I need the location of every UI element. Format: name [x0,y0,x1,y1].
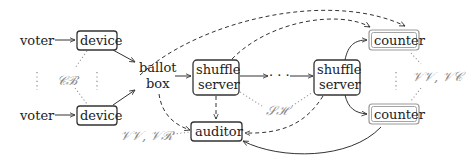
vv-vc-label: 𝒱𝒱, 𝒱𝒞 [412,69,466,84]
edge-shuffle2-to-counter-top [345,40,367,60]
cb-label: 𝒞ℬ [57,73,80,88]
edge-device-bottom-to-ballotbox [113,90,135,105]
vv-vr-label: 𝒱𝒱, 𝒱ℛ [120,128,175,143]
svg-text:server: server [319,77,362,92]
voter-bottom: voter [19,108,55,123]
voter-top: voter [19,33,55,48]
ballot-box-node: ballot box [139,60,177,91]
device-top-node: device [77,31,123,50]
svg-text:auditor: auditor [195,124,244,139]
svg-text:device: device [80,108,123,123]
edge-shuffle2-to-counter-bottom [345,95,367,114]
counter-bottom-node: counter [369,104,426,124]
svg-text:ballot: ballot [139,60,177,75]
sh-dotted-left [240,92,262,106]
sh-label: 𝒮ℋ [266,103,293,118]
ellipsis: · · · [269,68,290,83]
cb-dotted-bottom [75,88,87,104]
auditor-node: auditor [191,122,244,141]
shuffle-server-2-node: shuffle server [314,60,362,95]
vvvc-dotted-top [411,53,421,64]
counter-top-node: counter [369,30,426,50]
sh-dotted-right [292,92,313,106]
device-bottom-node: device [77,106,123,125]
svg-text:counter: counter [374,33,426,48]
voting-protocol-diagram: voter voter device device ballot box shu… [0,0,473,165]
edge-device-top-to-ballotbox [113,50,135,62]
cb-dotted-top [75,51,87,68]
svg-text:shuffle: shuffle [317,62,362,77]
svg-text:shuffle: shuffle [196,62,241,77]
svg-text:counter: counter [374,107,426,122]
edge-ballotbox-to-auditor [159,94,190,130]
edge-ballotbox-to-counter-top [140,10,405,75]
svg-text:box: box [146,76,170,91]
edge-counter-to-auditor [243,127,381,154]
svg-text:server: server [198,77,241,92]
edge-shuffle1-to-counter-top [232,19,370,59]
svg-text:device: device [80,33,123,48]
vvvc-dotted-bottom [411,88,421,101]
shuffle-server-1-node: shuffle server [193,60,241,95]
